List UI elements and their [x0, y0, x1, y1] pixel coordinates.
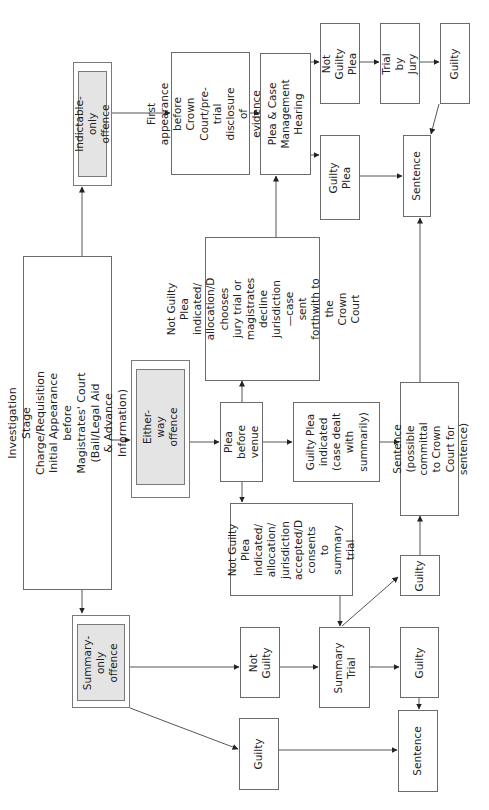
node-label: Indictable-only offence [73, 96, 112, 152]
node-label: Not Guilty Plea [320, 48, 359, 79]
node-plea-before-venue: Plea before venue [220, 402, 263, 482]
node-plea-case-management-hearing: Plea & Case Management Hearing [260, 53, 311, 175]
node-label: Not Guilty Plea indicated/ allocation/ j… [226, 519, 357, 580]
node-not-guilty-plea-sent-crown-court: Not Guilty Plea indicated/ allocation/D … [205, 237, 320, 381]
node-label: Sentence [410, 151, 423, 200]
node-guilty-summary-only: Guilty [239, 718, 279, 790]
node-label: Guilty [413, 647, 426, 678]
node-label: Investigation Stage Charge/Requisition I… [6, 371, 130, 475]
node-summary-trial: Summary Trial [319, 627, 370, 708]
node-investigation-stage: Investigation Stage Charge/Requisition I… [23, 256, 112, 590]
offence-highlight: Indictable-only offence [78, 71, 107, 177]
node-summary-only-offence: Summary- only offence [72, 615, 130, 708]
node-label: Guilty Plea [327, 162, 353, 193]
node-label: Summary Trial [331, 642, 357, 693]
node-guilty-plea-crown: Guilty Plea [320, 135, 360, 220]
node-guilty-crown: Guilty [440, 23, 470, 104]
node-sentence-possible-committal: Sentence (possible committal to Crown Co… [400, 382, 459, 516]
offence-highlight: Summary- only offence [77, 624, 125, 701]
node-not-guilty-plea-crown: Not Guilty Plea [320, 23, 360, 104]
node-indictable-only-offence: Indictable-only offence [73, 62, 112, 186]
node-label: Guilty [413, 560, 426, 591]
node-first-appearance-crown-court: First appearance before Crown Court/pre-… [171, 52, 250, 175]
node-not-guilty-plea-summary-trial: Not Guilty Plea indicated/ allocation/ j… [230, 503, 353, 596]
node-label: Plea & Case Management Hearing [266, 79, 305, 148]
node-label: Trial by Jury [380, 53, 419, 74]
node-guilty-after-summary-trial-upper: Guilty [400, 555, 440, 596]
node-label: Sentence (possible committal to Crown Co… [390, 422, 469, 475]
node-label: Summary- only offence [81, 635, 120, 689]
node-label: Guilty [448, 48, 461, 79]
node-sentence-magistrates: Sentence [398, 710, 438, 792]
offence-highlight: Either-way offence [136, 369, 185, 485]
node-trial-by-jury: Trial by Jury [380, 23, 420, 104]
node-either-way-offence: Either-way offence [131, 360, 190, 498]
node-guilty-summary-trial: Guilty [400, 627, 439, 698]
node-label: Not Guilty [247, 647, 273, 678]
node-guilty-plea-indicated: Guilty Plea indicated (case dealt with s… [293, 402, 380, 482]
node-label: First appearance before Crown Court/pre-… [145, 82, 276, 144]
node-not-guilty-summary: Not Guilty [240, 627, 280, 698]
node-label: Sentence [411, 726, 424, 775]
node-label: Not Guilty Plea indicated/ allocation/D … [164, 278, 361, 341]
node-sentence-crown: Sentence [403, 135, 431, 217]
node-label: Guilty Plea indicated (case dealt with s… [304, 412, 370, 471]
node-label: Plea before venue [222, 425, 261, 459]
node-label: Guilty [252, 739, 265, 770]
node-label: Either-way offence [141, 408, 180, 447]
